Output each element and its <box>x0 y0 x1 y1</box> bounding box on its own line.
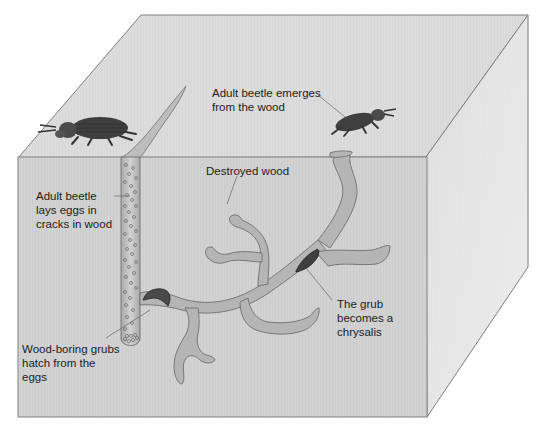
egg-tunnel <box>121 157 140 346</box>
label-destroyed-wood: Destroyed wood <box>206 164 289 178</box>
label-chrysalis: The grub becomes a chrysalis <box>337 297 393 339</box>
label-beetle-emerges: Adult beetle emerges from the wood <box>212 86 321 114</box>
label-grubs-hatch: Wood-boring grubs hatch from the eggs <box>22 342 120 384</box>
label-lays-eggs: Adult beetle lays eggs in cracks in wood <box>36 189 112 231</box>
